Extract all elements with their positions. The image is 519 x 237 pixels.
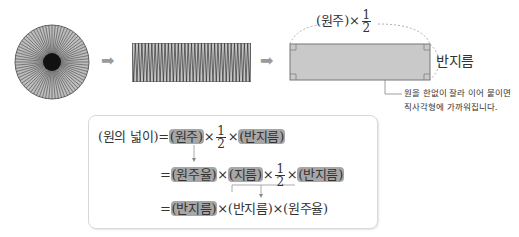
formula-line-2: =(원주율)×(지름)×12×(반지름) <box>160 163 344 188</box>
term-pi: (원주율) <box>171 167 218 182</box>
term-diameter: (지름) <box>228 167 263 182</box>
term-radius: (반지름) <box>171 201 218 216</box>
term-radius: (반지름) <box>297 167 344 182</box>
formula-line-3: =(반지름)×(반지름)×(원주율) <box>160 198 328 217</box>
